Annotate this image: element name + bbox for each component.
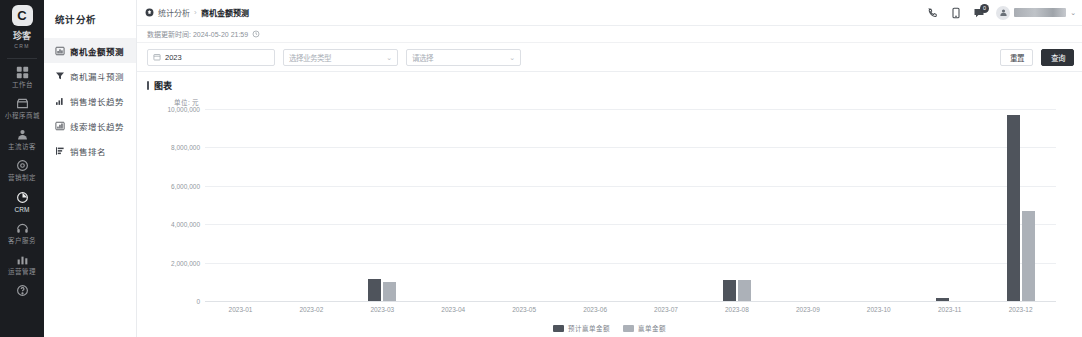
sidebar-item-opportunity-funnel-forecast[interactable]: 商机漏斗预测 [44, 63, 136, 88]
query-button[interactable]: 查询 [1041, 49, 1074, 66]
bar-group[interactable]: 2023-07 [631, 109, 702, 301]
top-bar-actions: 0 ⌄ [927, 6, 1076, 20]
rail-item-help[interactable] [0, 279, 44, 303]
chart-plot-area: 单位: 元 10,000,0008,000,0006,000,0004,000,… [147, 95, 1072, 337]
chevron-down-icon: ⌄ [1070, 9, 1076, 16]
breadcrumb-root[interactable]: 统计分析 [158, 7, 190, 18]
x-axis-tick: 2023-09 [772, 306, 843, 313]
user-menu[interactable]: ⌄ [996, 6, 1076, 20]
rail-item-label: 主流访客 [8, 143, 36, 150]
visitor-icon [16, 128, 29, 141]
y-axis-tick: 2,000,000 [171, 259, 200, 266]
sidebar-item-lead-growth-trend[interactable]: 线索增长趋势 [44, 113, 136, 138]
bar-2023-03-预计赢单金额[interactable] [368, 279, 381, 301]
message-badge: 0 [980, 4, 989, 13]
extra-select[interactable]: 请选择 ⌄ [406, 49, 521, 66]
sidebar-item-sales-ranking[interactable]: 销售排名 [44, 138, 136, 163]
bar-group[interactable]: 2023-08 [701, 109, 772, 301]
x-axis-tick: 2023-08 [701, 306, 772, 313]
bar-group[interactable]: 2023-01 [205, 109, 276, 301]
business-type-placeholder: 选择业务类型 [289, 52, 331, 63]
bar-2023-03-赢单金额[interactable] [383, 282, 396, 301]
bar-group[interactable]: 2023-10 [843, 109, 914, 301]
bar-2023-12-预计赢单金额[interactable] [1007, 115, 1020, 301]
chart-card: 图表 单位: 元 10,000,0008,000,0006,000,0004,0… [137, 72, 1082, 337]
x-axis-tick: 2023-01 [205, 306, 276, 313]
x-axis-tick: 2023-10 [843, 306, 914, 313]
refresh-icon[interactable] [252, 30, 260, 38]
bar-group[interactable]: 2023-02 [276, 109, 347, 301]
y-axis-tick: 8,000,000 [171, 144, 200, 151]
app-logo[interactable]: C 珍客 CRM [12, 5, 33, 49]
shop-icon [16, 97, 29, 110]
breadcrumb-separator: › [194, 8, 197, 17]
tablet-icon[interactable] [950, 7, 962, 19]
bar-group[interactable]: 2023-03 [347, 109, 418, 301]
x-axis-tick: 2023-05 [489, 306, 560, 313]
sidebar-item-opportunity-amount-forecast[interactable]: 商机金额预测 [44, 38, 136, 63]
funnel-icon [55, 71, 65, 81]
rail-item-visitors[interactable]: 主流访客 [0, 123, 44, 154]
pie-icon [16, 191, 29, 204]
rail-item-workbench[interactable]: 工作台 [0, 61, 44, 92]
bar-group[interactable]: 2023-12 [985, 109, 1056, 301]
calendar-icon [153, 53, 161, 61]
rail-item-marketing[interactable]: 营销制定 [0, 154, 44, 185]
rail-item-operations[interactable]: 运营管理 [0, 248, 44, 279]
message-icon[interactable]: 0 [973, 7, 985, 19]
x-axis-tick: 2023-02 [276, 306, 347, 313]
bar-group[interactable]: 2023-06 [560, 109, 631, 301]
sidebar-item-label: 销售增长趋势 [70, 95, 124, 107]
help-icon [16, 284, 29, 297]
rail-item-label: 工作台 [12, 81, 33, 88]
reset-button[interactable]: 重置 [1000, 49, 1033, 66]
bar-group[interactable]: 2023-05 [489, 109, 560, 301]
sidebar-item-label: 商机漏斗预测 [70, 70, 124, 82]
bar-2023-08-赢单金额[interactable] [738, 280, 751, 301]
trend-up-icon [55, 96, 65, 106]
logo-mark: C [12, 5, 33, 26]
chart-section-title: 图表 [147, 79, 1072, 92]
home-icon[interactable] [145, 8, 154, 17]
rail-item-label: 小程序商城 [5, 112, 40, 119]
chart-canvas: 10,000,0008,000,0006,000,0004,000,0002,0… [205, 109, 1056, 301]
rail-item-miniprogram-shop[interactable]: 小程序商城 [0, 92, 44, 123]
breadcrumb-current: 商机金额预测 [201, 7, 249, 18]
secondary-nav: 统计分析 商机金额预测 商机漏斗预测 销售增长趋势 线索增长趋势 销售排名 [44, 0, 137, 337]
legend-label: 赢单金额 [638, 323, 666, 333]
top-bar: 统计分析 › 商机金额预测 0 ⌄ [137, 0, 1082, 26]
rail-item-customer-service[interactable]: 客户服务 [0, 217, 44, 248]
bar-group[interactable]: 2023-11 [914, 109, 985, 301]
user-name [1014, 8, 1066, 17]
x-axis-tick: 2023-03 [347, 306, 418, 313]
bar-chart-icon [55, 46, 65, 56]
rail-item-label: CRM [15, 206, 30, 213]
sidebar-item-label: 商机金额预测 [70, 45, 124, 57]
bar-groups: 2023-012023-022023-032023-042023-052023-… [205, 109, 1056, 301]
bar-group[interactable]: 2023-04 [418, 109, 489, 301]
legend-item-赢单金额[interactable]: 赢单金额 [623, 323, 666, 333]
phone-icon[interactable] [927, 7, 939, 19]
breadcrumb: 统计分析 › 商机金额预测 [145, 7, 249, 18]
main-content: 统计分析 › 商机金额预测 0 ⌄ 数据更新时间: 2024-05-20 2 [137, 0, 1082, 337]
business-type-select[interactable]: 选择业务类型 ⌄ [283, 49, 398, 66]
x-axis-tick: 2023-06 [560, 306, 631, 313]
rail-item-label: 运营管理 [8, 268, 36, 275]
bar-group[interactable]: 2023-09 [772, 109, 843, 301]
sidebar-item-sales-growth-trend[interactable]: 销售增长趋势 [44, 88, 136, 113]
year-picker[interactable]: 2023 [147, 49, 275, 66]
legend-label: 预计赢单金额 [568, 323, 610, 333]
y-axis-tick: 10,000,000 [167, 106, 200, 113]
logo-subtitle: CRM [14, 43, 30, 49]
data-update-time: 数据更新时间: 2024-05-20 21:59 [147, 29, 248, 39]
rail-item-crm[interactable]: CRM [0, 186, 44, 217]
chart-legend: 预计赢单金额赢单金额 [147, 323, 1072, 333]
legend-item-预计赢单金额[interactable]: 预计赢单金额 [553, 323, 610, 333]
x-axis-tick: 2023-12 [985, 306, 1056, 313]
title-accent-bar [147, 81, 149, 90]
bar-2023-08-预计赢单金额[interactable] [723, 280, 736, 302]
bar-2023-12-赢单金额[interactable] [1022, 211, 1035, 301]
rail-item-label: 营销制定 [8, 174, 36, 181]
bar-2023-11-预计赢单金额[interactable] [936, 298, 949, 301]
data-update-bar: 数据更新时间: 2024-05-20 21:59 [137, 26, 1082, 43]
